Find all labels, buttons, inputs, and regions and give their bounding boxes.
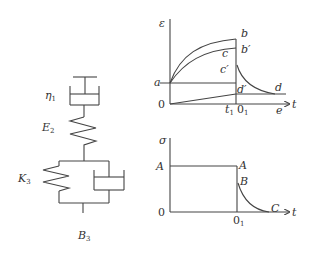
- stress-chart-axes: [170, 138, 289, 212]
- stress-ylabel: σ: [159, 135, 167, 146]
- strain-chart-axes: [170, 19, 289, 104]
- point-d-prime: d′: [237, 84, 247, 95]
- strain-xlabel: t: [292, 99, 296, 110]
- label-eta1: η1: [45, 90, 56, 103]
- point-A: A: [239, 160, 247, 171]
- rheological-model-figure: η1 E2 K3 B3 ε a 0 b b′ c c′ d′ d t1 01 e…: [0, 0, 312, 256]
- point-a: a: [154, 77, 161, 88]
- strain-ylabel: ε: [159, 18, 165, 29]
- stress-origin: 0: [158, 207, 165, 218]
- point-b-prime: b′: [241, 44, 251, 55]
- stress-tick-o1: 01: [233, 215, 244, 228]
- spring-E2: [70, 117, 96, 161]
- point-C: C: [271, 203, 279, 214]
- point-B: B: [240, 176, 248, 187]
- label-K3: K3: [18, 173, 31, 186]
- label-E2: E2: [42, 122, 55, 135]
- point-e: e: [276, 105, 283, 116]
- point-b: b: [241, 28, 248, 39]
- stress-chart-curves: [170, 166, 269, 212]
- dashpot-eta1: [70, 77, 99, 117]
- tick-t1: t1: [225, 104, 234, 117]
- stress-ylevel-A: A: [156, 161, 164, 172]
- point-c-prime: c′: [220, 64, 229, 75]
- tick-o1: 01: [237, 104, 248, 117]
- kelvin-unit-K3-B3: [43, 161, 124, 213]
- point-d: d: [275, 82, 282, 93]
- point-c: c: [222, 48, 228, 59]
- stress-xlabel: t: [292, 207, 296, 218]
- label-B3: B3: [78, 230, 91, 243]
- strain-origin: 0: [158, 99, 165, 110]
